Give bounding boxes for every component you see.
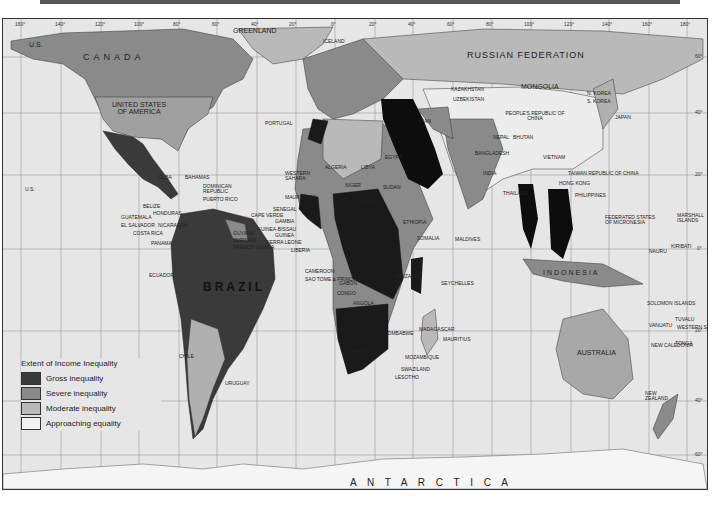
label-japan: JAPAN (615, 115, 631, 120)
label-algeria: ALGERIA (325, 165, 347, 170)
legend-item-approaching: Approaching equality (21, 416, 161, 431)
label-dominican: DOMINICAN REPUBLIC (203, 184, 243, 194)
label-canada: C A N A D A (83, 53, 142, 62)
longitude-tick: 0° (331, 21, 336, 27)
label-guatemala: GUATEMALA (121, 215, 151, 220)
longitude-tick: 120° (95, 21, 105, 27)
label-nepal: NEPAL (493, 135, 509, 140)
longitude-tick: 140° (55, 21, 65, 27)
label-angola: ANGOLA (353, 301, 374, 306)
label-india: INDIA (483, 171, 496, 176)
label-uzbekistan: UZBEKISTAN (453, 97, 484, 102)
label-madagascar: MADAGASCAR (419, 327, 455, 332)
label-bangladesh: BANGLADESH (475, 151, 509, 156)
label-taiwan: TAIWAN REPUBLIC OF CHINA (568, 171, 639, 176)
label-belize: BELIZE (143, 204, 160, 209)
longitude-tick: 100° (134, 21, 144, 27)
label-australia: AUSTRALIA (577, 349, 616, 356)
label-antarctica: A N T A R C T I C A (350, 477, 512, 488)
label-hong-kong: HONG KONG (559, 181, 590, 186)
label-guinea: GUINEA (275, 233, 294, 238)
label-thailand: THAILAND (503, 191, 528, 196)
label-tanzania: TANZANIA (395, 274, 419, 279)
longitude-tick: 20° (289, 21, 297, 27)
label-tuvalu: TUVALU (675, 317, 694, 322)
label-libya: LIBYA (361, 165, 375, 170)
longitude-tick: 60° (212, 21, 220, 27)
label-us-hawaii: U.S. (25, 187, 35, 192)
label-bahamas: BAHAMAS (185, 175, 209, 180)
label-vanuatu: VANUATU (649, 323, 672, 328)
label-chad: CHAD (361, 199, 375, 204)
label-brazil: BRAZIL (203, 281, 265, 293)
label-french-guiana: FRENCH GUIANA (233, 245, 274, 250)
legend-swatch-approaching (21, 417, 41, 430)
latitude-tick: 0° (697, 245, 702, 251)
legend-swatch-gross (21, 372, 41, 385)
label-egypt: EGYPT (385, 155, 402, 160)
label-micronesia: FEDERATED STATES OF MICRONESIA (605, 215, 655, 225)
label-indonesia: INDONESIA (543, 269, 600, 276)
label-china: PEOPLE'S REPUBLIC OF CHINA (505, 111, 565, 121)
label-namibia: NAMIBIA (348, 349, 369, 354)
legend-label: Severe inequality (46, 389, 107, 398)
legend-item-severe: Severe inequality (21, 386, 161, 401)
label-honduras: HONDURAS (153, 211, 182, 216)
label-portugal: PORTUGAL (265, 121, 292, 126)
longitude-tick: 160° (15, 21, 25, 27)
latitude-tick: 60° (695, 53, 703, 59)
latitude-tick: 40° (695, 109, 703, 115)
legend-item-moderate: Moderate inequality (21, 401, 161, 416)
label-gabon: GABON (339, 281, 357, 286)
legend-label: Moderate inequality (46, 404, 116, 413)
label-mongolia: MONGOLIA (521, 83, 559, 90)
label-kazakhstan: KAZAKHSTAN (451, 87, 484, 92)
label-solomon: SOLOMON ISLANDS (647, 301, 695, 306)
longitude-tick: 100° (524, 21, 534, 27)
label-new-caledonia: NEW CALEDONIA (651, 343, 693, 348)
label-maldives: MALDIVES (455, 237, 480, 242)
legend-title: Extent of Income Inequality (21, 359, 161, 368)
longitude-tick: 80° (486, 21, 494, 27)
label-nicaragua: NICARAGUA (158, 223, 188, 228)
longitude-tick: 180° (680, 21, 690, 27)
label-puerto-rico: PUERTO RICO (203, 197, 238, 202)
page-header-band (40, 0, 680, 4)
label-niger: NIGER (345, 183, 361, 188)
label-iran: IRAN (419, 119, 431, 124)
label-kiribati: KIRIBATI (671, 244, 691, 249)
latitude-tick: 20° (695, 171, 703, 177)
legend-swatch-severe (21, 387, 41, 400)
label-liberia: LIBERIA (291, 248, 310, 253)
legend-swatch-moderate (21, 402, 41, 415)
world-map: 160° 140° 120° 100° 80° 60° 40° 20° 0° 2… (2, 18, 708, 490)
label-guyana: GUYANA (233, 231, 254, 236)
label-nauru: NAURU (649, 249, 667, 254)
label-panama: PANAMA (151, 241, 172, 246)
label-sierra-leone: SIERRA LEONE (265, 240, 302, 245)
label-western-sahara: WESTERN SAHARA (285, 171, 315, 181)
label-marshall: MARSHALL ISLANDS (677, 213, 707, 223)
latitude-tick: 60° (695, 451, 703, 457)
latitude-tick: 40° (695, 397, 703, 403)
label-korea-s: S. KOREA (587, 99, 611, 104)
label-mozambique: MOZAMBIQUE (405, 355, 439, 360)
label-surinam: SURINAM (233, 238, 256, 243)
label-cameroon: CAMEROON (305, 269, 334, 274)
label-swaziland: SWAZILAND (401, 367, 430, 372)
label-vietnam: VIETNAM (543, 155, 565, 160)
legend-item-gross: Gross inequality (21, 371, 161, 386)
longitude-tick: 20° (369, 21, 377, 27)
label-ecuador: ECUADOR (149, 273, 174, 278)
label-new-zealand: NEW ZEALAND (645, 391, 675, 401)
label-ethiopia: ETHIOPIA (403, 220, 426, 225)
label-western-samoa: WESTERN SAMOA (677, 325, 708, 330)
label-bhutan: BHUTAN (513, 135, 533, 140)
legend-label: Approaching equality (46, 419, 121, 428)
longitude-tick: 140° (602, 21, 612, 27)
label-korea-n: N. KOREA (587, 91, 611, 96)
label-seychelles: SEYCHELLES (441, 281, 474, 286)
legend-label: Gross inequality (46, 374, 103, 383)
label-uruguay: URUGUAY (225, 381, 250, 386)
label-el-salvador: EL SALVADOR (121, 223, 155, 228)
